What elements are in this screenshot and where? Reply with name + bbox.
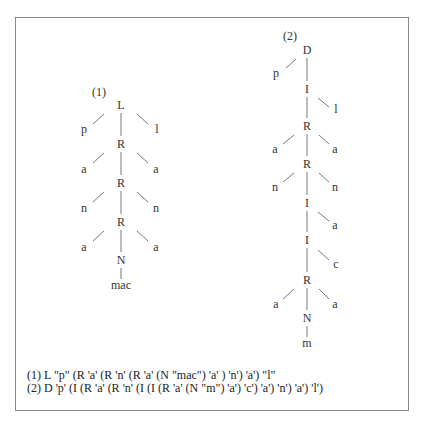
tree-node: R (303, 273, 311, 287)
tree-node: m (302, 336, 312, 350)
tree-node: N (303, 311, 312, 325)
tree-label: (1) (92, 85, 106, 99)
tree-node: a (332, 218, 338, 232)
tree-node: l (155, 122, 159, 136)
tree-node: l (334, 102, 338, 116)
tree-node: L (117, 98, 124, 112)
tree-2: (2) D p I l R a a R n n I a I c R a a (272, 29, 339, 350)
tree-node: R (303, 157, 311, 171)
tree-node: n (332, 180, 338, 194)
tree-node: p (273, 66, 279, 80)
tree-node: p (81, 122, 87, 136)
tree-node: a (332, 297, 338, 311)
tree-node: R (117, 137, 125, 151)
tree-node: mac (111, 278, 131, 292)
tree-1: (1) L p l R a a R n n R a a N mac (81, 85, 159, 292)
tree-node: a (153, 240, 159, 254)
tree-node: D (303, 43, 312, 57)
tree-node: I (305, 196, 309, 210)
tree-node: a (272, 142, 278, 156)
tree-node: R (117, 176, 125, 190)
tree-node: a (332, 142, 338, 156)
tree-node: I (305, 82, 309, 96)
tree-label: (2) (283, 29, 297, 43)
tree-node: R (117, 215, 125, 229)
tree-node: R (303, 119, 311, 133)
tree-node: n (81, 201, 87, 215)
tree-node: a (273, 297, 279, 311)
tree-node: n (153, 201, 159, 215)
tree-node: N (117, 253, 126, 267)
tree-diagrams: (1) L p l R a a R n n R a a N mac (2) D … (0, 0, 425, 429)
tree-node: a (81, 240, 87, 254)
tree-node: I (305, 233, 309, 247)
tree-node: a (153, 162, 159, 176)
caption-tree-2: (2) D 'p' (I (R 'a' (R 'n' (I (I (R 'a' … (27, 381, 323, 396)
tree-node: a (81, 162, 87, 176)
tree-node: n (272, 180, 278, 194)
tree-node: c (333, 257, 338, 271)
